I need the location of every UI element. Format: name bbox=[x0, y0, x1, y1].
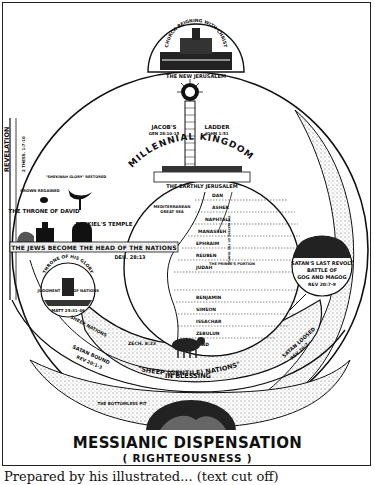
new-jerusalem-dome: CHURCH REIGNING WITH CHRIST THE NEW JERU… bbox=[148, 18, 244, 79]
messianic-dispensation-diagram: CHURCH REIGNING WITH CHRIST THE NEW JERU… bbox=[0, 0, 375, 440]
last-revolt-label: SATAN'S LAST REVOLT bbox=[291, 260, 353, 266]
new-jerusalem-label: THE NEW JERUSALEM bbox=[166, 73, 226, 79]
temple-waters-label: THE WATERS OF THE TEMPLE bbox=[227, 215, 231, 264]
tribe-label: ISSACHAR bbox=[196, 319, 222, 324]
ladder-left-ref: GEN 28:10-15 bbox=[149, 131, 180, 136]
tribe-label: JUDAH bbox=[195, 265, 213, 270]
diagram-subtitle: ( RIGHTEOUSNESS ) bbox=[0, 452, 375, 464]
tribe-label: EPHRAIM bbox=[196, 241, 220, 246]
tribe-label: MANASSEH bbox=[198, 229, 227, 234]
glory-label: "SHEKINAH GLORY" RESTORED bbox=[46, 175, 107, 179]
throne-of-david-label: THE THRONE OF DAVID bbox=[8, 208, 80, 214]
ladder-left-label: JACOB'S bbox=[151, 124, 177, 131]
tribe-label: DAN bbox=[212, 193, 223, 198]
prince-portion-label: THE PRINCE'S PORTION bbox=[209, 262, 255, 266]
revelation-label: REVELATION bbox=[3, 127, 11, 172]
in-blessing-label: IN BLESSING bbox=[165, 372, 211, 380]
cut-off-caption: Prepared by his illustrated... (text cut… bbox=[4, 469, 372, 485]
tribe-label: NAPHTALI bbox=[205, 217, 230, 222]
gog-magog-label: GOG AND MAGOG bbox=[297, 274, 346, 280]
tribe-label: BENJAMIN bbox=[196, 295, 222, 300]
left-panel: CROWN REGAINED "SHEKINAH GLORY" RESTORED… bbox=[8, 175, 132, 242]
tribe-label: REUBEN bbox=[196, 253, 217, 258]
jacobs-ladder: JACOB'S GEN 28:10-15 LADDER JOHN 1:51 bbox=[149, 79, 231, 179]
jews-band-ref: DEU. 28:13 bbox=[114, 254, 146, 260]
of-nations-label: OF NATIONS bbox=[73, 288, 99, 293]
earthly-jerusalem-label: THE EARTHLY JERUSALEM bbox=[166, 183, 237, 189]
revelation-ref: 2 THESS. 1:7-10 bbox=[21, 136, 26, 172]
bottomless-pit-label: THE BOTTOMLESS PIT bbox=[98, 401, 147, 406]
jews-band-label: THE JEWS BECOME THE HEAD OF THE NATIONS bbox=[11, 244, 177, 252]
land-globe: THE EARTHLY JERUSALEM MEDITERRANEAN GREA… bbox=[124, 166, 300, 356]
satans-last-revolt-panel: SATAN'S LAST REVOLT BATTLE OF GOG AND MA… bbox=[291, 236, 353, 296]
revolt-ref: REV 20:7-9 bbox=[308, 282, 336, 287]
tribe-label: SIMEON bbox=[196, 307, 216, 312]
judgment-ref: MATT 25:31-46 bbox=[51, 308, 85, 313]
diagram-title: MESSIANIC DISPENSATION bbox=[0, 434, 375, 452]
crown-label: CROWN REGAINED bbox=[20, 188, 60, 193]
zech-ref: ZECH. 8:23 bbox=[128, 341, 156, 346]
judgment-label: JUDGMENT bbox=[37, 288, 61, 293]
sea-sub-label: GREAT SEA bbox=[160, 209, 184, 214]
battle-of-label: BATTLE OF bbox=[307, 267, 337, 273]
tribe-label: ZEBULUN bbox=[196, 331, 220, 336]
ladder-right-label: LADDER bbox=[205, 124, 231, 130]
tribe-label: ASHER bbox=[212, 205, 230, 210]
